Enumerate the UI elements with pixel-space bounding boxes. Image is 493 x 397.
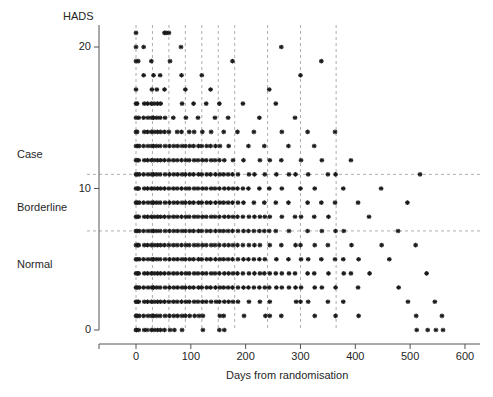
data-point xyxy=(136,271,141,276)
data-point xyxy=(287,285,292,290)
data-point xyxy=(226,115,231,120)
data-point xyxy=(196,243,201,248)
data-point xyxy=(235,215,240,220)
data-point xyxy=(252,200,257,205)
data-point xyxy=(187,314,192,319)
data-point xyxy=(247,299,252,304)
data-point xyxy=(221,229,226,234)
data-point xyxy=(141,314,146,319)
data-point xyxy=(434,328,439,333)
data-point xyxy=(187,158,192,163)
data-point xyxy=(226,285,231,290)
data-point xyxy=(168,59,173,64)
data-point xyxy=(349,243,354,248)
data-point xyxy=(396,229,401,234)
data-point xyxy=(163,257,168,262)
data-point xyxy=(257,229,262,234)
data-point xyxy=(172,328,177,333)
data-point xyxy=(263,314,268,319)
data-point xyxy=(267,314,272,319)
data-point xyxy=(136,158,141,163)
data-point xyxy=(183,144,188,149)
data-point xyxy=(217,215,222,220)
data-point xyxy=(167,144,172,149)
data-point xyxy=(180,101,185,106)
data-point xyxy=(168,328,173,333)
data-point xyxy=(141,172,146,177)
data-point xyxy=(201,314,206,319)
data-point xyxy=(274,271,279,276)
data-point xyxy=(280,215,285,220)
data-point xyxy=(247,271,252,276)
data-point xyxy=(226,271,231,276)
data-point xyxy=(180,328,185,333)
data-point xyxy=(246,229,251,234)
data-point xyxy=(293,172,298,177)
data-point xyxy=(213,215,218,220)
data-point xyxy=(167,158,172,163)
data-point xyxy=(222,299,227,304)
data-point xyxy=(158,101,163,106)
data-point xyxy=(231,271,236,276)
data-point xyxy=(179,243,184,248)
data-point xyxy=(162,158,167,163)
data-point xyxy=(319,200,324,205)
data-point xyxy=(213,158,218,163)
data-point xyxy=(158,229,163,234)
data-point xyxy=(333,229,338,234)
data-point xyxy=(279,45,284,50)
data-point xyxy=(312,215,317,220)
data-point xyxy=(175,257,180,262)
data-point xyxy=(179,299,184,304)
data-point xyxy=(183,87,188,92)
data-point xyxy=(175,186,180,191)
data-point xyxy=(137,314,142,319)
data-point xyxy=(263,257,268,262)
y-tick-label: 10 xyxy=(51,182,91,194)
data-point xyxy=(267,271,272,276)
data-point xyxy=(252,130,257,135)
data-point xyxy=(262,144,267,149)
data-point xyxy=(167,243,172,248)
data-point xyxy=(263,285,268,290)
y-tick-label: 0 xyxy=(51,323,91,335)
data-point xyxy=(209,130,214,135)
data-point xyxy=(187,130,192,135)
data-point xyxy=(306,257,311,262)
data-point xyxy=(298,186,303,191)
data-point xyxy=(155,87,160,92)
data-point xyxy=(158,115,163,120)
data-point xyxy=(136,243,141,248)
data-point xyxy=(199,229,204,234)
data-point xyxy=(217,186,222,191)
data-point xyxy=(167,271,172,276)
data-point xyxy=(299,158,304,163)
data-point xyxy=(231,243,236,248)
data-point xyxy=(134,31,139,36)
data-point xyxy=(274,257,279,262)
data-point xyxy=(279,314,284,319)
data-point xyxy=(213,186,218,191)
data-point xyxy=(231,158,236,163)
data-point xyxy=(305,229,310,234)
data-point xyxy=(286,200,291,205)
data-point xyxy=(191,229,196,234)
data-point xyxy=(137,229,142,234)
data-point xyxy=(226,229,231,234)
data-point xyxy=(312,271,317,276)
data-point xyxy=(141,257,146,262)
data-point xyxy=(136,299,141,304)
data-point xyxy=(257,257,262,262)
data-point xyxy=(213,243,218,248)
data-point xyxy=(136,186,141,191)
data-point xyxy=(167,31,172,36)
data-point xyxy=(213,229,218,234)
data-point xyxy=(221,130,226,135)
data-point xyxy=(286,257,291,262)
data-point xyxy=(204,299,209,304)
data-point xyxy=(183,257,188,262)
data-point xyxy=(356,200,361,205)
data-point xyxy=(424,271,429,276)
data-point xyxy=(167,186,172,191)
data-point xyxy=(299,215,304,220)
